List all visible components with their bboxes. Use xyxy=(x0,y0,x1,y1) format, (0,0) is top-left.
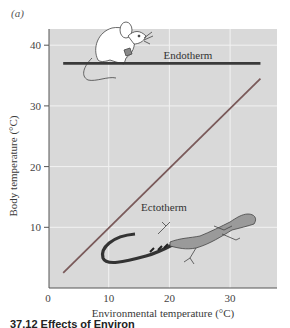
figure-caption: 37.12 Effects of Environ xyxy=(10,318,135,328)
ectotherm-label: Ectotherm xyxy=(141,201,187,213)
y-tick-label: 30 xyxy=(30,100,42,112)
endotherm-label: Endotherm xyxy=(164,49,213,61)
x-ticks: 0102030 xyxy=(45,292,236,304)
x-tick-label: 10 xyxy=(103,292,115,304)
x-tick-label: 20 xyxy=(164,292,176,304)
y-tick-label: 10 xyxy=(30,221,42,233)
x-tick-label: 30 xyxy=(225,292,237,304)
x-tick-label: 0 xyxy=(45,292,51,304)
chart: 10203040 0102030 Endotherm Ectotherm Env… xyxy=(0,0,290,328)
y-axis-title: Body temperature (°C) xyxy=(7,115,20,216)
y-ticks: 10203040 xyxy=(30,39,49,233)
y-tick-label: 40 xyxy=(30,39,42,51)
y-tick-label: 20 xyxy=(30,161,42,173)
